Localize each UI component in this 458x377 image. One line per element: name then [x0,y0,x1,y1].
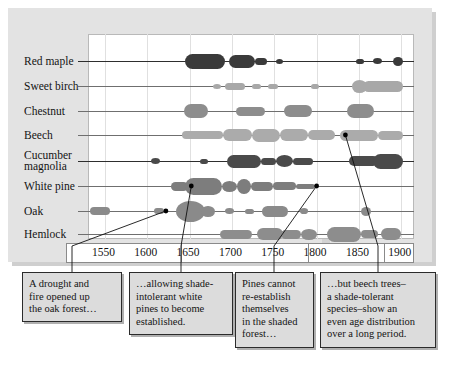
callout-line: even age distribution [327,316,429,329]
age-distribution-blob [225,83,245,90]
species-label-connector [78,61,90,62]
age-distribution-blob [381,228,401,240]
age-distribution-blob [356,59,364,64]
species-label: magnolia [24,160,67,172]
age-distribution-blob [347,104,374,118]
axis-divider [384,243,385,263]
callout-line: …allowing shade- [136,278,226,291]
age-distribution-blob [300,208,308,214]
age-distribution-blob [255,58,268,65]
age-distribution-blob [213,84,221,89]
species-label-connector [78,135,90,136]
species-label-connector [78,211,90,212]
axis-divider [181,243,182,263]
age-distribution-blob [252,129,280,142]
axis-tick-label: 1550 [92,246,115,258]
callout-line: in the shaded [242,316,307,329]
axis-tick-label: 1700 [219,246,242,258]
age-distribution-blob [268,84,278,89]
age-distribution-blob [222,181,237,192]
age-distribution-blob [225,208,233,214]
species-label: Sweet birch [24,80,79,92]
species-label-connector [78,86,90,87]
age-distribution-blob [276,59,283,64]
age-distribution-blob [276,155,293,167]
age-distribution-blob [185,178,221,195]
callout-line: forest… [242,328,307,341]
age-distribution-blob [229,55,254,68]
species-label: Oak [24,205,43,217]
callout-drought: A drought and fire opened up the oak for… [22,272,122,322]
age-distribution-blob [182,131,223,139]
axis-tick-label: 1850 [346,246,369,258]
age-distribution-blob [340,130,377,141]
age-distribution-blob [252,84,260,89]
age-distribution-blob [262,206,287,217]
age-distribution-blob [245,209,253,214]
callout-beech: …but beech trees– a shade-tolerant speci… [320,272,436,348]
species-label: White pine [24,180,75,192]
callout-white-pine: …allowing shade- intolerant white pines … [129,272,233,335]
age-distribution-blob [227,155,261,168]
species-label: Beech [24,129,53,141]
age-distribution-blob [200,159,208,164]
species-label: Red maple [24,55,74,67]
age-distribution-blob [151,158,160,164]
callout-line: a shade-tolerant [327,291,429,304]
callout-line: re-establish [242,291,307,304]
axis-tick-label: 1600 [134,246,157,258]
age-distribution-blob [251,182,273,191]
axis-tick-label: 1650 [177,246,200,258]
callout-line: intolerant white [136,291,226,304]
age-distribution-blob [308,130,335,140]
age-distribution-blob [261,158,276,165]
grid-line [147,34,148,239]
species-label-connector [78,161,90,162]
plot-area [88,34,414,239]
figure-root: Red mapleSweet birchChestnutBeechCucumbe… [0,0,458,377]
age-distribution-blob [373,154,403,169]
callout-line: Pines cannot [242,278,307,291]
axis-tick-label: 1750 [261,246,284,258]
callout-line: species–show an [327,303,429,316]
age-distribution-blob [257,228,282,240]
callout-pines-cannot: Pines cannot re-establish themselves in … [235,272,314,348]
age-distribution-blob [363,81,403,92]
age-distribution-blob [327,227,361,242]
callout-line: established. [136,316,226,329]
axis-tick-label: 1900 [388,246,411,258]
age-distribution-blob [361,230,378,238]
age-distribution-blob [296,184,315,189]
age-distribution-blob [284,105,311,117]
species-label-connector [78,111,90,112]
age-distribution-blob [237,179,251,194]
axis-divider [308,243,309,263]
callout-line: fire opened up [29,291,115,304]
age-distribution-blob [301,229,316,240]
species-label: Chestnut [24,105,65,117]
age-distribution-blob [90,207,110,215]
age-distribution-blob [280,129,308,141]
callout-line: pines to become [136,303,226,316]
age-distribution-blob [293,158,313,165]
age-distribution-blob [373,58,382,64]
age-distribution-blob [223,129,252,141]
axis-tick-label: 1800 [304,246,327,258]
species-label-connector [78,186,90,187]
species-label-connector [78,234,90,235]
age-distribution-blob [393,57,403,66]
callout-line: themselves [242,303,307,316]
age-distribution-blob [185,54,225,69]
age-distribution-blob [236,107,265,116]
callout-line: …but beech trees– [327,278,429,291]
callout-line: the oak forest… [29,303,115,316]
age-distribution-blob [273,182,297,190]
age-distribution-blob [281,230,301,239]
age-distribution-blob [201,206,215,217]
age-distribution-blob [311,84,319,89]
age-distribution-blob [184,104,209,118]
age-distribution-blob [378,131,403,140]
age-distribution-blob [220,230,252,239]
callout-line: A drought and [29,278,115,291]
age-distribution-blob [154,208,164,214]
